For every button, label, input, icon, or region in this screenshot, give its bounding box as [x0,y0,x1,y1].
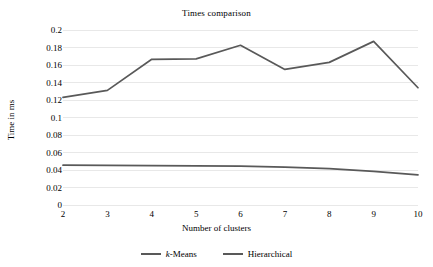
y-tick-label: 0.14 [18,78,62,88]
plot-svg [63,30,418,205]
gridlines [63,30,418,205]
series-lines [63,41,418,174]
x-tick-label: 8 [327,208,332,220]
chart-legend: k-MeansHierarchical [0,246,433,262]
y-tick-label: 0.18 [18,43,62,53]
legend-line-icon [223,253,243,255]
y-tick-label: 0.04 [18,165,62,175]
y-tick-label: 0.2 [18,25,62,35]
x-tick-label: 6 [238,208,243,220]
legend-item-1[interactable]: k-Means [141,249,197,259]
x-tick-label: 2 [61,208,66,220]
x-tick-label: 4 [150,208,155,220]
x-axis-tick-labels: 2345678910 [63,208,418,222]
x-tick-label: 3 [105,208,110,220]
series-line-1 [63,41,418,97]
y-tick-label: 0.1 [18,113,62,123]
x-tick-label: 5 [194,208,199,220]
legend-item-label: k-Means [166,249,197,259]
x-tick-label: 10 [414,208,423,220]
chart-title: Times comparison [0,8,433,18]
y-tick-label: 0 [18,200,62,210]
y-tick-label: 0.12 [18,95,62,105]
y-tick-label: 0.16 [18,60,62,70]
chart-container: Times comparison Time in ms 0.20.180.160… [0,0,433,267]
y-tick-label: 0.02 [18,183,62,193]
x-tick-label: 9 [371,208,376,220]
plot-area [63,30,418,205]
x-tick-label: 7 [283,208,288,220]
y-tick-label: 0.08 [18,130,62,140]
legend-line-icon [141,253,161,255]
y-tick-label: 0.06 [18,148,62,158]
x-axis-title: Number of clusters [0,223,433,233]
legend-item-2[interactable]: Hierarchical [223,249,292,259]
y-axis-title: Time in ms [6,100,16,141]
legend-item-label: Hierarchical [248,249,292,259]
